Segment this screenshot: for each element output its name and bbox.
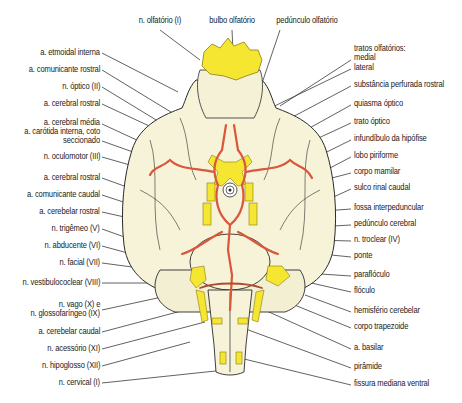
label-olfactory-peduncle: pedúnculo olfatório: [272, 16, 342, 25]
brain-ventral-diagram: n. olfatório (I) bulbo olfatório pedúncu…: [0, 0, 462, 403]
label-left-13: n. facial (VII): [60, 258, 100, 267]
label-right-20: fissura mediana ventral: [354, 379, 429, 388]
label-left-3: a. cerebral rostral: [44, 99, 100, 108]
label-right-9: sulco rinal caudal: [354, 183, 410, 192]
label-left-2: n. óptico (II): [62, 82, 100, 91]
label-olfactory-bulb: bulbo olfatório: [201, 16, 263, 25]
label-left-10: a. cerebelar rostral: [40, 207, 100, 216]
label-right-15: flóculo: [354, 286, 375, 295]
label-left-1: a. comunicante rostral: [29, 65, 101, 74]
label-right-2: lateral: [354, 63, 374, 72]
label-left-7: n. oculomotor (III): [43, 152, 100, 161]
label-left-20: n. cervical (I): [59, 378, 100, 387]
olfactory-bulb: [202, 38, 262, 80]
label-right-7: lobo piriforme: [354, 151, 398, 160]
label-left-9: a. comunicante caudal: [27, 190, 100, 199]
label-left-16: n. glossofaríngeo (IX): [31, 309, 100, 318]
label-right-14: paraflóculo: [354, 270, 390, 279]
label-right-4: quiasma óptico: [354, 99, 403, 108]
label-left-18: n. acessório (XI): [47, 344, 100, 353]
label-right-8: corpo mamilar: [354, 167, 400, 176]
label-right-1: medial: [354, 53, 375, 62]
label-right-16: hemisfério cerebelar: [354, 306, 420, 315]
label-right-6: infundíbulo da hipófise: [354, 134, 427, 143]
label-left-11: n. trigêmeo (V): [52, 224, 100, 233]
label-right-13: ponte: [354, 251, 372, 260]
label-left-17: a. cerebelar caudal: [38, 327, 100, 336]
label-right-5: trato óptico: [354, 117, 390, 126]
label-left-8: a. cerebral rostral: [44, 173, 100, 182]
label-right-10: fossa interpeduncular: [354, 203, 424, 212]
label-right-3: substância perfurada rostral: [354, 80, 444, 89]
label-left-0: a. etmoidal interna: [40, 48, 100, 57]
label-left-6: seccionado: [63, 136, 100, 145]
label-olfactory-nerve: n. olfatório (I): [129, 16, 191, 25]
label-right-17: corpo trapezoide: [354, 322, 408, 331]
label-left-14: n. vestibulococlear (VIII): [22, 278, 100, 287]
label-right-19: pirâmide: [354, 362, 382, 371]
label-right-11: pedúnculo cerebral: [354, 219, 416, 228]
label-right-12: n. troclear (IV): [354, 235, 400, 244]
label-left-19: n. hipoglosso (XII): [42, 361, 100, 370]
label-right-18: a. basilar: [354, 343, 383, 352]
label-left-12: n. abducente (VI): [44, 241, 100, 250]
